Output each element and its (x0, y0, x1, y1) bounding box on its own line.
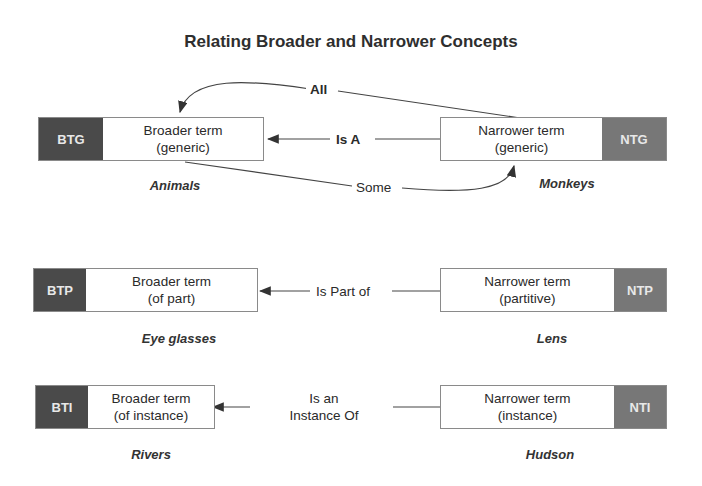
narrower-term-partitive-box: Narrower term (partitive) NTP (440, 268, 667, 312)
broader-term-generic-box: BTG Broader term (generic) (38, 117, 264, 161)
narrower-term-generic-box: Narrower term (generic) NTG (440, 117, 667, 161)
relation-is-part-of: Is Part of (312, 283, 374, 300)
example-hudson: Hudson (470, 447, 630, 462)
broader-term-qualifier: (of part) (148, 290, 195, 307)
example-lens: Lens (472, 331, 632, 346)
relation-some: Some (352, 179, 395, 196)
relation-is-an-instance-of: Is an Instance Of (255, 390, 393, 424)
narrower-term-qualifier: (instance) (498, 407, 557, 424)
broader-term-label: Broader term (144, 122, 223, 139)
btg-tag: BTG (39, 118, 103, 160)
example-monkeys: Monkeys (487, 176, 647, 191)
example-rivers: Rivers (71, 447, 231, 462)
broader-term-label: Broader term (112, 390, 191, 407)
broader-term-instance-box: BTI Broader term (of instance) (35, 385, 215, 429)
relation-line-1: Is an (259, 390, 389, 407)
nti-tag: NTI (614, 386, 666, 428)
broader-term-label: Broader term (132, 273, 211, 290)
ntp-tag: NTP (614, 269, 666, 311)
example-eye-glasses: Eye glasses (99, 331, 259, 346)
narrower-term-label: Narrower term (478, 122, 564, 139)
btp-tag: BTP (34, 269, 86, 311)
relation-is-a: Is A (332, 131, 364, 148)
relation-all: All (306, 81, 331, 98)
narrower-term-instance-box: Narrower term (instance) NTI (440, 385, 667, 429)
narrower-term-qualifier: (partitive) (499, 290, 555, 307)
narrower-term-label: Narrower term (484, 273, 570, 290)
broader-term-qualifier: (of instance) (114, 407, 188, 424)
broader-term-qualifier: (generic) (156, 139, 209, 156)
broader-term-part-box: BTP Broader term (of part) (33, 268, 258, 312)
narrower-term-label: Narrower term (484, 390, 570, 407)
relation-line-2: Instance Of (259, 407, 389, 424)
narrower-term-qualifier: (generic) (495, 139, 548, 156)
all-curve-arrow (180, 83, 310, 112)
all-tail-line (338, 91, 520, 118)
example-animals: Animals (95, 178, 255, 193)
ntg-tag: NTG (602, 118, 666, 160)
bti-tag: BTI (36, 386, 88, 428)
